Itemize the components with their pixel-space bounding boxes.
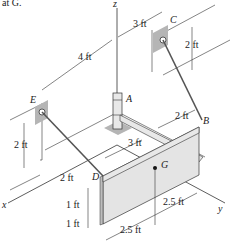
x-axis: x <box>1 145 117 210</box>
cable-cb <box>163 40 202 120</box>
dim-2ft-c-label: 2 ft <box>185 39 199 50</box>
point-b-label: B <box>203 115 209 126</box>
x-axis-label: x <box>1 199 7 210</box>
point-a-label: A <box>125 93 133 104</box>
point-c-label: C <box>170 14 177 25</box>
dim-3ft-mid: 3 ft <box>105 137 142 158</box>
dim-2ft-d: 2 ft <box>60 172 74 183</box>
dim-3ft-mid-label: 3 ft <box>128 137 142 148</box>
bracket-e: E <box>29 94 48 125</box>
dim-3ft-top-label: 3 ft <box>133 18 147 29</box>
cable-ed <box>42 112 103 176</box>
dim-2ft-b: 2 ft <box>158 110 195 128</box>
dim-2ft-d-label: 2 ft <box>60 172 74 183</box>
dim-2ft-b-label: 2 ft <box>175 110 189 121</box>
point-e-label: E <box>29 94 36 105</box>
dim-1ft-top-label: 1 ft <box>66 199 80 210</box>
header-text: at G. <box>2 0 21 8</box>
dim-4ft-label: 4 ft <box>78 51 92 62</box>
dim-2ft-c: 2 ft <box>185 27 199 70</box>
plate: G D <box>91 127 199 225</box>
z-axis-label: z <box>112 0 117 9</box>
point-g-label: G <box>161 159 168 170</box>
dim-2ft-e: 2 ft <box>14 123 28 168</box>
statics-diagram: at G. z x y 4 ft 3 ft 2 ft <box>0 0 232 247</box>
dim-1ft-pair: 1 ft 1 ft <box>66 188 88 229</box>
dim-1ft-bottom-label: 1 ft <box>66 218 80 229</box>
y-axis-label: y <box>217 203 223 214</box>
support-a: A <box>104 93 133 135</box>
dim-2-5ft-right-label: 2.5 ft <box>163 196 184 207</box>
point-d-label: D <box>91 171 100 182</box>
dim-4ft: 4 ft <box>42 40 112 90</box>
dim-2ft-e-label: 2 ft <box>14 139 28 150</box>
dim-2-5ft-bottom-label: 2.5 ft <box>120 224 141 235</box>
bracket-c: C <box>153 14 177 53</box>
